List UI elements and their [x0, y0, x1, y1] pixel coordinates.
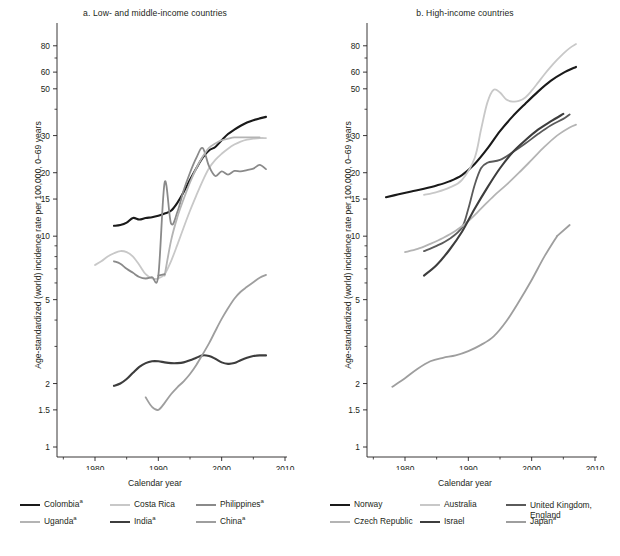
legend-swatch-icon: [20, 521, 40, 523]
y-tick-label: 30: [351, 131, 361, 141]
figure-container: a. Low- and middle-income countries Age-…: [0, 0, 620, 556]
legend-footnote-marker: a: [152, 515, 155, 521]
legend-item-czech-republic[interactable]: Czech Republic: [330, 517, 413, 526]
y-tick-label: 60: [41, 67, 51, 77]
legend-footnote-marker: a: [73, 515, 76, 521]
panel-low-middle-income: a. Low- and middle-income countries Age-…: [0, 0, 310, 556]
y-tick-label: 10: [41, 231, 51, 241]
legend-label: Costa Rica: [134, 500, 175, 509]
legend-swatch-icon: [506, 521, 526, 523]
y-tick-label: 20: [41, 168, 51, 178]
legend-swatch-icon: [330, 521, 350, 523]
x-tick-label: 1990: [459, 464, 478, 470]
y-tick-label: 5: [45, 295, 50, 305]
x-axis-label-a: Calendar year: [0, 478, 310, 488]
y-tick-label: 30: [41, 131, 51, 141]
y-tick-label: 1: [355, 442, 360, 452]
legend-swatch-icon: [506, 504, 526, 506]
legend-row: Czech RepublicIsraelJapana: [310, 517, 620, 534]
legend-row: UgandaaIndiaaChinaa: [0, 517, 310, 534]
plot-area-b: 80605030201510521.511980199020002010: [310, 0, 620, 470]
y-tick-label: 20: [351, 168, 361, 178]
legend-label: Ugandaa: [44, 517, 77, 526]
legend-label: Chinaa: [220, 517, 245, 526]
series-line-india: [114, 355, 266, 386]
legend-item-colombia[interactable]: Colombiaa: [20, 500, 83, 509]
legend-item-china[interactable]: Chinaa: [196, 517, 245, 526]
panel-high-income: b. High-income countries Age-standardize…: [310, 0, 620, 556]
y-tick-label: 60: [351, 67, 361, 77]
legend-item-israel[interactable]: Israel: [420, 517, 464, 526]
y-tick-label: 1.5: [38, 405, 50, 415]
x-tick-label: 2010: [586, 464, 605, 470]
legend-label: Colombiaa: [44, 500, 83, 509]
y-tick-label: 15: [41, 194, 51, 204]
legend-item-japan[interactable]: Japana: [506, 517, 556, 526]
y-tick-label: 15: [351, 194, 361, 204]
plot-area-a: 80605030201510521.511980199020002010: [0, 0, 310, 470]
legend-item-philippines[interactable]: Philippinesa: [196, 500, 264, 509]
x-axis-label-b: Calendar year: [310, 478, 620, 488]
y-tick-label: 1: [45, 442, 50, 452]
legend-footnote-marker: a: [553, 515, 556, 521]
legend-footnote-marker: a: [242, 515, 245, 521]
y-tick-label: 1.5: [348, 405, 360, 415]
y-tick-label: 80: [41, 41, 51, 51]
x-tick-label: 1980: [86, 464, 105, 470]
legend-item-australia[interactable]: Australia: [420, 500, 477, 509]
y-tick-label: 50: [41, 84, 51, 94]
y-tick-label: 80: [351, 41, 361, 51]
legend-label: Indiaa: [134, 517, 156, 526]
y-tick-label: 2: [355, 379, 360, 389]
series-line-japan: [392, 236, 557, 387]
legend-item-uganda[interactable]: Ugandaa: [20, 517, 77, 526]
legend-swatch-icon: [420, 521, 440, 523]
legend-label: Japana: [530, 517, 556, 526]
legend-label: Czech Republic: [354, 517, 413, 526]
series-line-japan-tail: [557, 225, 570, 236]
legend-swatch-icon: [196, 521, 216, 523]
legend-item-india[interactable]: Indiaa: [110, 517, 156, 526]
x-tick-label: 2010: [276, 464, 295, 470]
legend-swatch-icon: [110, 521, 130, 523]
legend-footnote-marker: a: [79, 498, 82, 504]
legend-item-norway[interactable]: Norway: [330, 500, 382, 509]
y-tick-label: 50: [351, 84, 361, 94]
legend-panel-a: ColombiaaCosta RicaPhilippinesaUgandaaIn…: [0, 500, 310, 534]
legend-row: NorwayAustraliaUnited Kingdom, England: [310, 500, 620, 517]
legend-swatch-icon: [20, 504, 40, 506]
legend-label: Australia: [444, 500, 477, 509]
x-tick-label: 2000: [522, 464, 541, 470]
legend-swatch-icon: [110, 504, 130, 506]
legend-item-costa-rica[interactable]: Costa Rica: [110, 500, 175, 509]
legend-label: Norway: [354, 500, 382, 509]
legend-label: Israel: [444, 517, 464, 526]
x-tick-label: 2000: [212, 464, 231, 470]
y-tick-label: 2: [45, 379, 50, 389]
legend-footnote-marker: a: [261, 498, 264, 504]
series-line-china: [146, 275, 266, 410]
legend-swatch-icon: [330, 504, 350, 506]
legend-swatch-icon: [196, 504, 216, 506]
y-tick-label: 5: [355, 295, 360, 305]
legend-panel-b: NorwayAustraliaUnited Kingdom, EnglandCz…: [310, 500, 620, 534]
y-tick-label: 10: [351, 231, 361, 241]
legend-label: Philippinesa: [220, 500, 264, 509]
legend-swatch-icon: [420, 504, 440, 506]
x-tick-label: 1990: [149, 464, 168, 470]
x-tick-label: 1980: [396, 464, 415, 470]
